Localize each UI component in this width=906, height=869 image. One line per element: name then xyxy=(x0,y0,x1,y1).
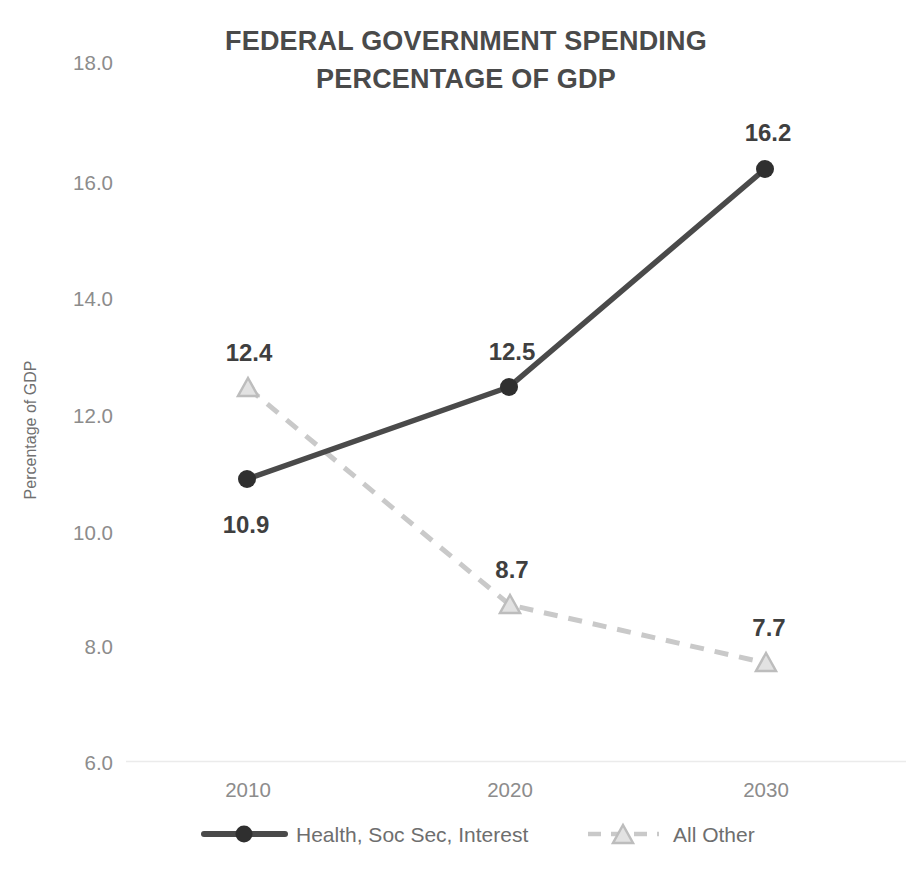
x-tick-label-2010: 2010 xyxy=(225,778,271,801)
circle-marker xyxy=(238,470,256,488)
series-line-all-other xyxy=(248,388,766,663)
y-tick-label: 14.0 xyxy=(73,287,113,310)
x-tick-label-2030: 2030 xyxy=(743,778,789,801)
data-label: 16.2 xyxy=(745,119,792,146)
legend-label: Health, Soc Sec, Interest xyxy=(296,823,528,846)
data-label: 12.4 xyxy=(226,339,273,366)
data-label: 12.5 xyxy=(489,338,536,365)
y-axis-tick-labels: 18.0 16.0 14.0 12.0 10.0 8.0 6.0 xyxy=(73,51,113,774)
x-tick-label-2020: 2020 xyxy=(487,778,533,801)
triangle-marker xyxy=(756,653,776,671)
legend-label: All Other xyxy=(673,823,755,846)
data-label: 8.7 xyxy=(495,556,528,583)
chart-title-line-2: PERCENTAGE OF GDP xyxy=(316,64,616,94)
chart-legend: Health, Soc Sec, Interest All Other xyxy=(204,823,755,846)
y-tick-label: 10.0 xyxy=(73,521,113,544)
series-markers-health-soc-sec-interest xyxy=(238,160,774,488)
x-axis-tick-labels: 2010 2020 2030 xyxy=(225,778,789,801)
y-tick-label: 12.0 xyxy=(73,404,113,427)
data-label: 10.9 xyxy=(223,511,270,538)
series-markers-all-other xyxy=(238,378,776,671)
chart-container: FEDERAL GOVERNMENT SPENDING PERCENTAGE O… xyxy=(0,0,906,869)
line-chart: FEDERAL GOVERNMENT SPENDING PERCENTAGE O… xyxy=(0,0,906,869)
legend-item-health-soc-sec-interest[interactable]: Health, Soc Sec, Interest xyxy=(204,823,528,846)
series-line-health-soc-sec-interest xyxy=(247,169,765,479)
chart-title-line-1: FEDERAL GOVERNMENT SPENDING xyxy=(225,26,707,56)
y-tick-label: 18.0 xyxy=(73,51,113,74)
legend-circle-marker xyxy=(236,826,253,843)
data-labels-health-soc-sec-interest: 10.9 12.5 16.2 xyxy=(223,119,792,538)
y-tick-label: 16.0 xyxy=(73,171,113,194)
circle-marker xyxy=(756,160,774,178)
circle-marker xyxy=(500,378,518,396)
data-label: 7.7 xyxy=(752,614,785,641)
triangle-marker xyxy=(238,378,258,396)
y-tick-label: 8.0 xyxy=(85,635,114,658)
y-tick-label: 6.0 xyxy=(85,751,114,774)
y-axis-title: Percentage of GDP xyxy=(22,361,39,500)
legend-item-all-other[interactable]: All Other xyxy=(588,823,755,846)
